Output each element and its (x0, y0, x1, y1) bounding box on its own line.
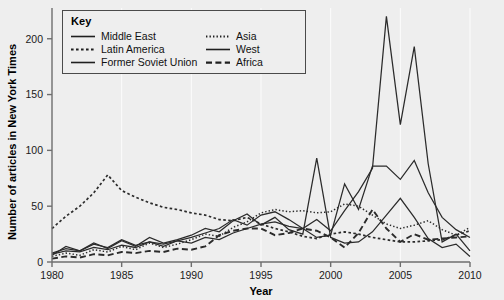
legend-swatch (205, 45, 231, 54)
legend-label: Middle East (101, 30, 156, 42)
legend-item-latin-america: Latin America (70, 43, 199, 55)
x-axis-title: Year (249, 285, 273, 297)
legend-label: West (236, 43, 260, 55)
legend-swatch (70, 45, 96, 54)
y-tick-label: 200 (25, 33, 43, 45)
legend-item-former-soviet-union: Former Soviet Union (70, 56, 199, 68)
legend-swatch (205, 58, 231, 67)
legend-swatch (70, 32, 96, 41)
legend-label: Africa (236, 56, 263, 68)
legend-item-west: West (205, 43, 298, 55)
y-tick-label: 100 (25, 144, 43, 156)
legend-item-africa: Africa (205, 56, 298, 68)
x-tick-label: 1980 (40, 269, 64, 281)
x-tick-label: 2000 (319, 269, 343, 281)
legend-swatch (70, 58, 96, 67)
legend-entries: Middle EastAsiaLatin AmericaWestFormer S… (70, 30, 298, 68)
y-tick-label: 50 (31, 200, 43, 212)
legend-label: Asia (236, 30, 256, 42)
legend-label: Latin America (101, 43, 165, 55)
legend-item-middle-east: Middle East (70, 30, 199, 42)
x-tick-label: 1995 (249, 269, 273, 281)
legend-label: Former Soviet Union (101, 56, 197, 68)
legend-swatch (205, 32, 231, 41)
x-tick-label: 1990 (180, 269, 204, 281)
legend-title: Key (71, 15, 298, 27)
x-tick-label: 1985 (110, 269, 134, 281)
chart-figure: 0501001502001980198519901995200020052010… (0, 0, 504, 300)
y-tick-label: 150 (25, 88, 43, 100)
x-tick-label: 2005 (389, 269, 413, 281)
y-axis-title: Number of articles in New York Times (6, 44, 18, 240)
legend: Key Middle EastAsiaLatin AmericaWestForm… (62, 10, 306, 74)
x-tick-label: 2010 (458, 269, 482, 281)
y-tick-label: 0 (37, 256, 43, 268)
legend-item-asia: Asia (205, 30, 298, 42)
